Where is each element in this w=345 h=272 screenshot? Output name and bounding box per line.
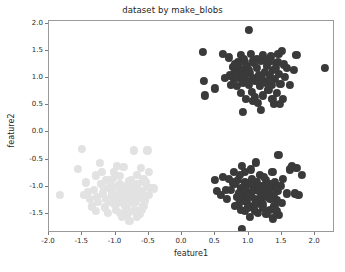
scatter-point xyxy=(256,106,264,114)
scatter-point xyxy=(150,184,158,192)
scatter-point xyxy=(279,175,287,183)
scatter-point xyxy=(211,176,219,184)
scatter-point xyxy=(95,159,103,167)
x-tick-mark xyxy=(248,232,249,235)
scatter-point xyxy=(269,214,277,222)
x-axis-label: feature1 xyxy=(48,249,334,258)
y-tick-label: 1.0 xyxy=(2,73,43,81)
scatter-point xyxy=(56,191,64,199)
y-tick-label: 1.5 xyxy=(2,46,43,54)
scatter-point xyxy=(130,146,138,154)
scatter-point xyxy=(238,225,246,231)
y-tick-mark xyxy=(45,50,48,51)
scatter-point xyxy=(298,171,306,179)
y-tick-label: -1.0 xyxy=(2,182,43,190)
x-tick-label: 2.0 xyxy=(308,237,319,245)
scatter-point xyxy=(74,165,82,173)
scatter-point xyxy=(103,209,111,217)
scatter-point xyxy=(264,58,272,66)
scatter-point xyxy=(137,164,145,172)
scatter-point xyxy=(211,84,219,92)
scatter-point xyxy=(283,189,291,197)
x-tick-mark xyxy=(214,232,215,235)
scatter-point xyxy=(321,64,329,72)
scatter-point xyxy=(286,81,294,89)
scatter-point xyxy=(224,53,232,61)
scatter-point xyxy=(81,178,89,186)
scatter-point xyxy=(78,145,86,153)
y-tick-mark xyxy=(45,213,48,214)
x-tick-mark xyxy=(115,232,116,235)
page-title: dataset by make_blobs xyxy=(0,5,345,15)
scatter-data-layer xyxy=(49,21,333,231)
scatter-point xyxy=(276,100,284,108)
scatter-point xyxy=(91,207,99,215)
y-tick-label: -1.5 xyxy=(2,209,43,217)
scatter-point xyxy=(274,151,282,159)
y-tick-mark xyxy=(45,159,48,160)
y-tick-label: 2.0 xyxy=(2,19,43,27)
x-tick-label: -1.5 xyxy=(74,237,88,245)
x-tick-mark xyxy=(81,232,82,235)
y-tick-mark xyxy=(45,23,48,24)
scatter-point xyxy=(201,91,209,99)
scatter-point xyxy=(145,167,153,175)
x-tick-mark xyxy=(48,232,49,235)
scatter-point xyxy=(138,206,146,214)
scatter-point xyxy=(244,26,252,34)
scatter-point xyxy=(239,108,247,116)
y-tick-mark xyxy=(45,131,48,132)
scatter-point xyxy=(268,167,276,175)
x-tick-label: 1.0 xyxy=(242,237,253,245)
scatter-point xyxy=(252,158,260,166)
scatter-point xyxy=(278,47,286,55)
x-tick-label: 1.5 xyxy=(275,237,286,245)
scatter-point xyxy=(143,146,151,154)
x-tick-label: -2.0 xyxy=(41,237,55,245)
scatter-point xyxy=(292,51,300,59)
y-tick-mark xyxy=(45,186,48,187)
y-tick-mark xyxy=(45,104,48,105)
scatter-point xyxy=(133,213,141,221)
x-tick-mark xyxy=(281,232,282,235)
scatter-point xyxy=(290,66,298,74)
scatter-point xyxy=(200,77,208,85)
x-tick-mark xyxy=(148,232,149,235)
axes-frame xyxy=(48,20,334,232)
y-tick-mark xyxy=(45,77,48,78)
y-axis-label: feature2 xyxy=(7,101,16,161)
x-tick-label: 0.5 xyxy=(209,237,220,245)
scatter-point xyxy=(294,191,302,199)
x-tick-mark xyxy=(181,232,182,235)
scatter-point xyxy=(223,195,231,203)
scatter-point xyxy=(98,167,106,175)
scatter-point xyxy=(115,172,123,180)
x-tick-mark xyxy=(314,232,315,235)
scatter-point xyxy=(199,48,207,56)
x-tick-label: -1.0 xyxy=(108,237,122,245)
figure-canvas: dataset by make_blobs -2.0-1.5-1.0-0.50.… xyxy=(0,0,345,272)
x-tick-label: 0.0 xyxy=(175,237,186,245)
x-tick-label: -0.5 xyxy=(141,237,155,245)
